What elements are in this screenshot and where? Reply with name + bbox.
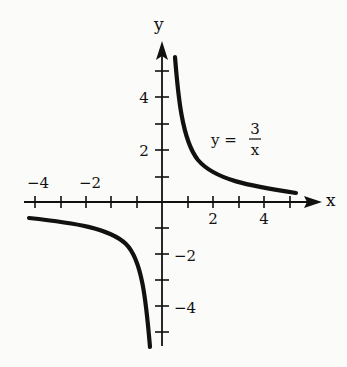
equation-annotation: y = 3 x (210, 120, 261, 159)
y-axis-label: y (153, 14, 164, 34)
x-axis-label: x (326, 190, 336, 210)
y-tick-label-4: 4 (139, 89, 149, 107)
equation-lhs: y = (210, 131, 237, 149)
y-tick-label-neg2: −2 (174, 247, 196, 265)
x-tick-label-neg4: −4 (27, 174, 49, 192)
curve-negative-branch (29, 218, 150, 347)
y-axis (155, 41, 169, 346)
x-tick-label-4: 4 (259, 210, 269, 228)
hyperbola-graph: x y −4 −2 2 4 4 2 −2 −4 y = 3 x (0, 0, 347, 367)
x-axis (24, 196, 322, 208)
y-tick-label-neg4: −4 (174, 299, 196, 317)
x-tick-label-neg2: −2 (79, 174, 101, 192)
curve-positive-branch (175, 57, 296, 193)
equation-denominator: x (251, 141, 260, 159)
y-tick-label-2: 2 (139, 142, 149, 160)
equation-numerator: 3 (250, 120, 260, 138)
x-tick-label-2: 2 (208, 210, 218, 228)
